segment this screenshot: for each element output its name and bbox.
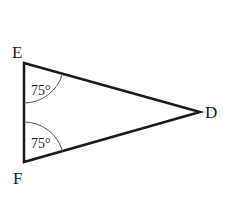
vertex-label-e: E <box>12 43 22 62</box>
vertex-label-d: D <box>205 103 217 122</box>
angle-label-e: 75° <box>31 83 51 98</box>
angle-label-f: 75° <box>31 136 51 151</box>
vertex-label-f: F <box>13 169 22 188</box>
triangle-diagram: E F D 75° 75° <box>0 0 229 209</box>
